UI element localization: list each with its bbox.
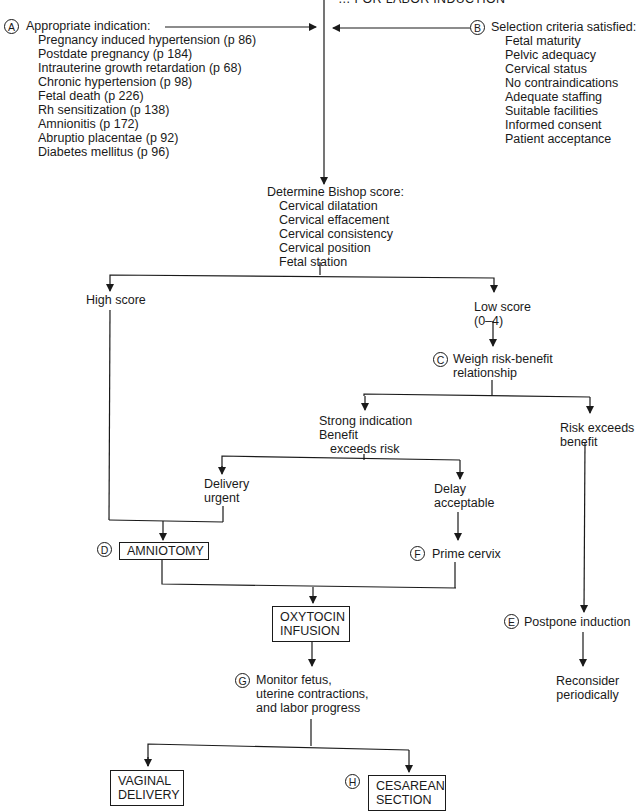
node-prime-cervix: Prime cervix	[432, 547, 501, 561]
indication-item: Intrauterine growth retardation (p 68)	[26, 61, 256, 75]
criteria-item: Patient acceptance	[491, 132, 636, 146]
node-risk-exceeds-benefit: Risk exceeds benefit	[560, 421, 634, 449]
low-score-label: Low score	[474, 300, 531, 314]
criteria-item: Cervical status	[491, 62, 636, 76]
reconsider-line2: periodically	[556, 688, 619, 702]
indication-item: Pregnancy induced hypertension (p 86)	[26, 33, 256, 47]
selection-heading: Selection criteria satisfied:	[491, 20, 636, 34]
node-high-score: High score	[86, 293, 146, 307]
weigh-line2: relationship	[453, 366, 553, 380]
oxytocin-line2: INFUSION	[280, 624, 342, 638]
indication-item: Rh sensitization (p 138)	[26, 103, 256, 117]
badge-f: F	[410, 546, 425, 561]
urgent-line2: urgent	[204, 491, 249, 505]
vaginal-line1: VAGINAL	[118, 774, 176, 788]
monitor-line3: and labor progress	[256, 701, 369, 715]
criteria-item: Fetal maturity	[491, 34, 636, 48]
criteria-item: Suitable facilities	[491, 104, 636, 118]
chart-title-fragment: … FOR LABOR INDUCTION	[338, 0, 505, 6]
node-low-score: Low score (0–4)	[474, 300, 531, 328]
indication-heading: Appropriate indication:	[26, 19, 256, 33]
bishop-item: Fetal station	[267, 255, 404, 269]
node-weigh-risk-benefit: Weigh risk-benefit relationship	[453, 352, 553, 380]
badge-a: A	[4, 19, 19, 34]
indication-item: Fetal death (p 226)	[26, 89, 256, 103]
node-bishop-score: Determine Bishop score: Cervical dilatat…	[267, 185, 404, 269]
node-monitor-fetus: Monitor fetus, uterine contractions, and…	[256, 673, 369, 715]
indication-list: Appropriate indication: Pregnancy induce…	[26, 19, 256, 159]
urgent-line1: Delivery	[204, 477, 249, 491]
monitor-line1: Monitor fetus,	[256, 673, 369, 687]
badge-h: H	[345, 774, 360, 789]
strong-line1: Strong indication	[319, 414, 412, 428]
bishop-item: Cervical dilatation	[267, 199, 404, 213]
monitor-line2: uterine contractions,	[256, 687, 369, 701]
risk-line2: benefit	[560, 435, 634, 449]
criteria-item: No contraindications	[491, 76, 636, 90]
box-vaginal-delivery: VAGINAL DELIVERY	[110, 770, 184, 806]
badge-d: D	[97, 542, 112, 557]
indication-item: Chronic hypertension (p 98)	[26, 75, 256, 89]
node-delivery-urgent: Delivery urgent	[204, 477, 249, 505]
badge-c: C	[433, 352, 448, 367]
reconsider-line1: Reconsider	[556, 674, 619, 688]
cesarean-line1: CESAREAN	[376, 779, 438, 793]
criteria-item: Informed consent	[491, 118, 636, 132]
indication-item: Diabetes mellitus (p 96)	[26, 145, 256, 159]
indication-item: Postdate pregnancy (p 184)	[26, 47, 256, 61]
box-oxytocin-infusion: OXYTOCIN INFUSION	[272, 606, 350, 642]
strong-line3: exceeds risk	[319, 442, 412, 456]
risk-line1: Risk exceeds	[560, 421, 634, 435]
bishop-item: Cervical consistency	[267, 227, 404, 241]
badge-e: E	[504, 614, 519, 629]
delay-line1: Delay	[434, 482, 494, 496]
indication-item: Abruptio placentae (p 92)	[26, 131, 256, 145]
low-score-range: (0–4)	[474, 314, 531, 328]
oxytocin-line1: OXYTOCIN	[280, 610, 342, 624]
cesarean-line2: SECTION	[376, 793, 438, 807]
strong-line2: Benefit	[319, 428, 412, 442]
box-cesarean-section: CESAREAN SECTION	[368, 775, 446, 811]
delay-line2: acceptable	[434, 496, 494, 510]
criteria-item: Adequate staffing	[491, 90, 636, 104]
criteria-item: Pelvic adequacy	[491, 48, 636, 62]
indication-item: Amnionitis (p 172)	[26, 117, 256, 131]
selection-criteria-list: Selection criteria satisfied: Fetal matu…	[491, 20, 636, 146]
node-postpone-induction: Postpone induction	[524, 615, 630, 629]
node-strong-indication: Strong indication Benefit exceeds risk	[319, 414, 412, 456]
badge-b: B	[470, 20, 485, 35]
bishop-item: Cervical position	[267, 241, 404, 255]
badge-g: G	[235, 673, 250, 688]
node-delay-acceptable: Delay acceptable	[434, 482, 494, 510]
node-reconsider-periodically: Reconsider periodically	[556, 674, 619, 702]
weigh-line1: Weigh risk-benefit	[453, 352, 553, 366]
bishop-item: Cervical effacement	[267, 213, 404, 227]
box-amniotomy: AMNIOTOMY	[119, 542, 209, 560]
bishop-heading: Determine Bishop score:	[267, 185, 404, 199]
vaginal-line2: DELIVERY	[118, 788, 176, 802]
